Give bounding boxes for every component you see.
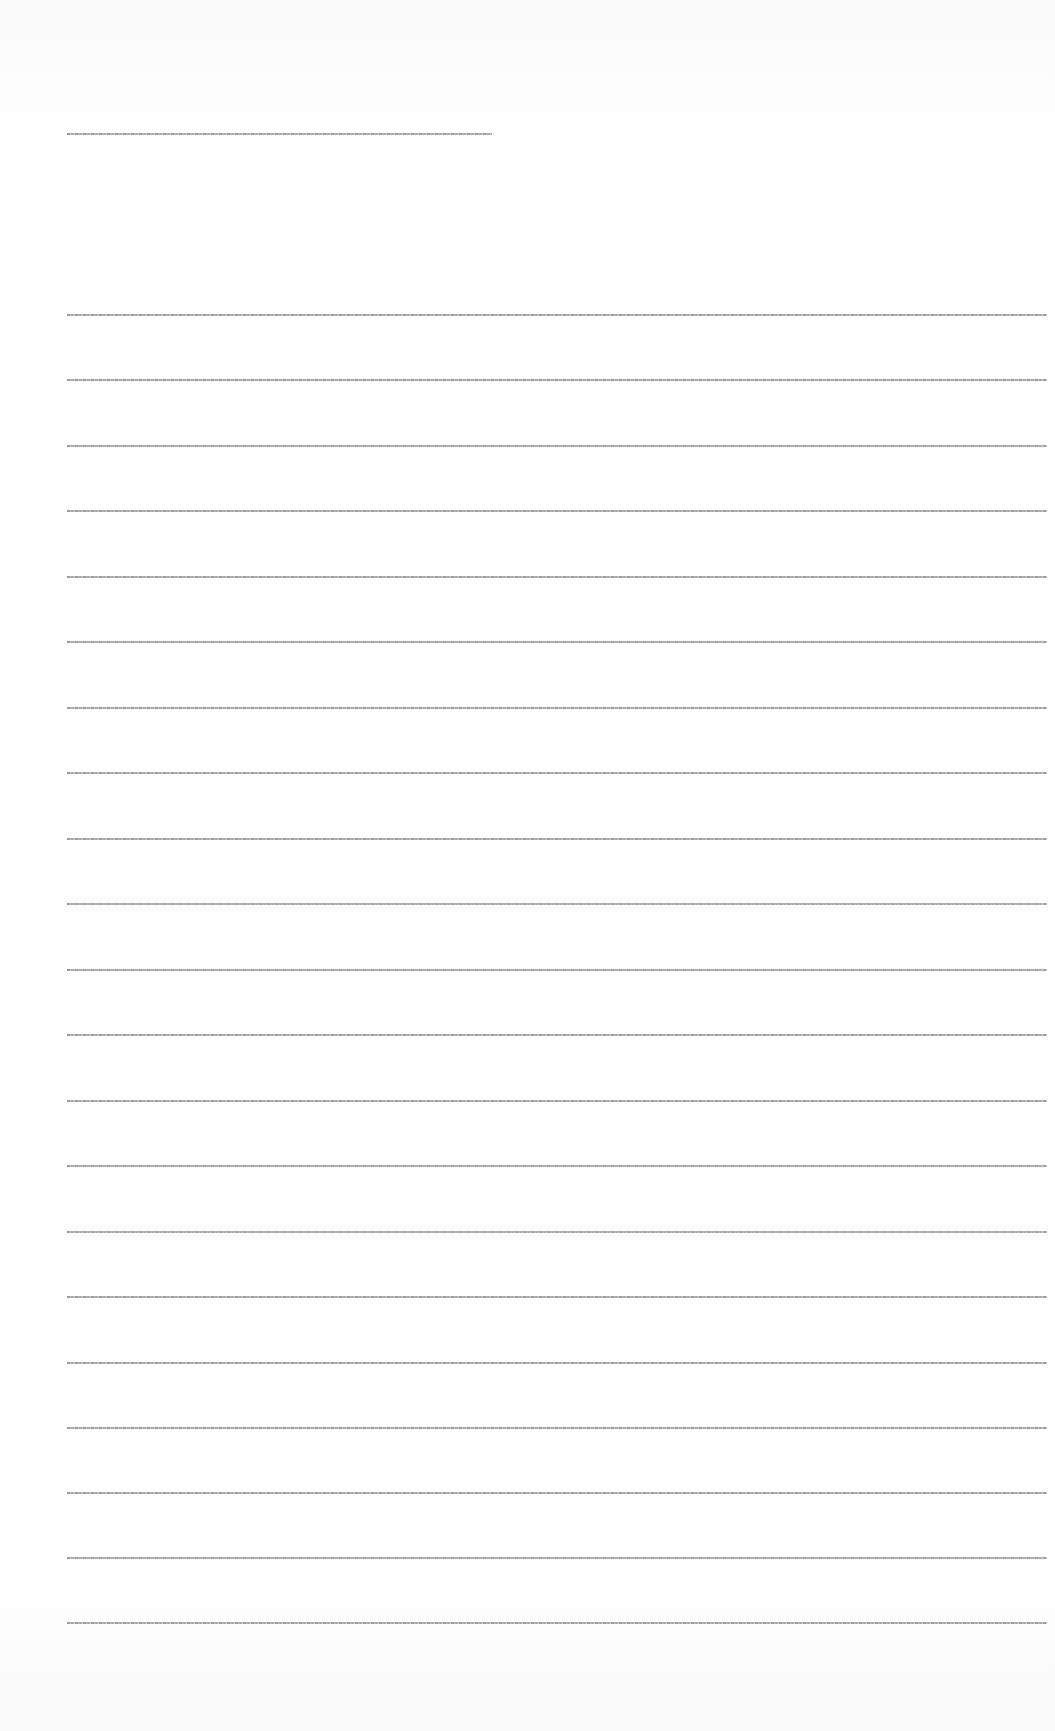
document-page <box>0 0 1055 1731</box>
document-text-line <box>67 1622 1047 1624</box>
document-text-line <box>67 1362 1047 1364</box>
document-title-line <box>67 133 492 135</box>
document-text-line <box>67 641 1047 643</box>
document-text-line <box>67 445 1047 447</box>
document-text-line <box>67 510 1047 512</box>
document-text-line <box>67 1296 1047 1298</box>
document-text-line <box>67 1231 1047 1233</box>
document-text-line <box>67 903 1047 905</box>
document-text-line <box>67 969 1047 971</box>
document-text-line <box>67 772 1047 774</box>
document-text-line <box>67 707 1047 709</box>
document-text-line <box>67 379 1047 381</box>
document-text-line <box>67 576 1047 578</box>
document-text-line <box>67 1427 1047 1429</box>
document-text-line <box>67 1492 1047 1494</box>
document-text-line <box>67 314 1047 316</box>
document-text-line <box>67 1557 1047 1559</box>
document-text-line <box>67 1100 1047 1102</box>
document-text-line <box>67 838 1047 840</box>
document-text-line <box>67 1165 1047 1167</box>
document-text-line <box>67 1034 1047 1036</box>
